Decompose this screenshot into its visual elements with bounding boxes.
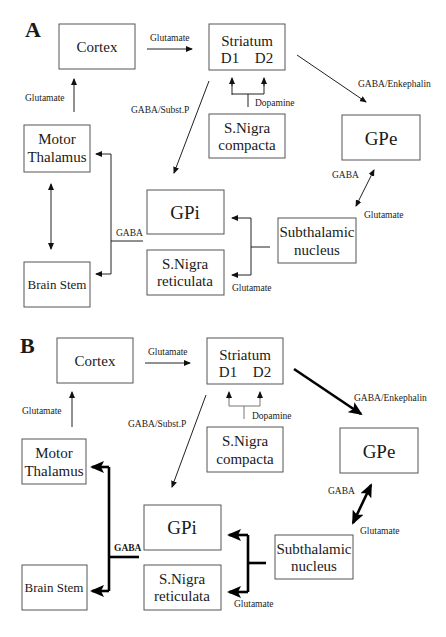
- node-label: S.Nigra: [159, 571, 206, 587]
- edge-label: GABA: [328, 486, 355, 496]
- panel-label-a: A: [25, 17, 41, 42]
- edge-gpi-output: GABA: [96, 154, 143, 274]
- node-gpi: GPi: [144, 505, 221, 550]
- node-label: Cortex: [75, 353, 116, 369]
- edge-label: GABA/Subst.P: [131, 105, 189, 115]
- edge-label: Glutamate: [360, 526, 400, 536]
- panel-b: B Cortex Striatum D1 D2 S.Nigra compacta…: [20, 333, 427, 610]
- node-label: Brain Stem: [25, 580, 84, 595]
- node-subthalamic-nucleus: Subthalamic nucleus: [275, 535, 353, 579]
- edge-label: GABA: [116, 228, 143, 238]
- basal-ganglia-diagram: A Cortex Striatum D1 D2 S.Nigra compacta…: [0, 0, 446, 637]
- node-striatum: Striatum D1 D2: [207, 338, 283, 384]
- node-cortex: Cortex: [57, 338, 133, 383]
- node-label: Thalamus: [27, 149, 86, 165]
- node-label: Thalamus: [24, 463, 83, 479]
- node-gpe: GPe: [340, 428, 418, 473]
- node-motor-thalamus: Motor Thalamus: [22, 439, 86, 484]
- edge-label: Dopamine: [252, 411, 292, 421]
- node-label: S.Nigra: [222, 433, 269, 449]
- edge-label: GABA/Enkephalin: [354, 393, 427, 403]
- node-label: Motor: [38, 131, 76, 147]
- edge-label: GABA: [114, 543, 142, 553]
- panel-a: A Cortex Striatum D1 D2 S.Nigra compacta…: [24, 17, 431, 307]
- node-label: Subthalamic: [277, 541, 352, 557]
- edge-label: Dopamine: [255, 98, 295, 108]
- edge-label: Glutamate: [232, 283, 272, 293]
- node-subthalamic-nucleus: Subthalamic nucleus: [278, 218, 356, 263]
- edge-label: Glutamate: [25, 93, 65, 103]
- node-label: GPi: [167, 517, 197, 538]
- node-label: compacta: [218, 137, 276, 153]
- node-label: Subthalamic: [280, 224, 355, 240]
- node-snigra-reticulata: S.Nigra reticulata: [144, 565, 221, 610]
- edge-label: GABA: [332, 170, 359, 180]
- striatum-d2-label: D2: [255, 50, 273, 66]
- node-gpe: GPe: [342, 115, 420, 160]
- panel-label-b: B: [20, 333, 35, 358]
- node-cortex: Cortex: [59, 24, 135, 69]
- node-label: Striatum: [221, 33, 273, 49]
- striatum-d1-label: D1: [219, 364, 237, 380]
- node-striatum: Striatum D1 D2: [209, 24, 285, 70]
- edge-label: Glutamate: [364, 210, 404, 220]
- edge-cortex-striatum: Glutamate: [147, 33, 192, 49]
- node-brain-stem: Brain Stem: [24, 262, 90, 307]
- edge-label: Glutamate: [148, 347, 188, 357]
- edge-thalamus-cortex: Glutamate: [22, 392, 72, 427]
- node-label: nucleus: [291, 558, 337, 574]
- edge-dopamine: Dopamine: [229, 392, 292, 421]
- edge-striatum-gpe-strong: GABA/Enkephalin: [294, 369, 427, 414]
- node-label: Striatum: [219, 347, 271, 363]
- edge-label: Glutamate: [234, 599, 274, 609]
- node-label: GPe: [363, 441, 396, 462]
- striatum-d2-label: D2: [253, 364, 271, 380]
- edge-dopamine: Dopamine: [232, 78, 295, 108]
- edge-striatum-gpi: GABA/Subst.P: [128, 395, 206, 487]
- edge-striatum-gpe: GABA/Enkephalin: [297, 55, 431, 102]
- node-label: nucleus: [294, 242, 340, 258]
- node-label: Motor: [35, 445, 73, 461]
- edge-striatum-gpi: GABA/Subst.P: [131, 81, 209, 173]
- node-label: reticulata: [157, 273, 213, 289]
- edge-label: Glutamate: [150, 33, 190, 43]
- edge-gpe-stn: GABA Glutamate: [332, 170, 404, 220]
- node-gpi: GPi: [147, 190, 224, 234]
- edge-stn-output-strong: Glutamate: [229, 535, 274, 609]
- node-label: S.Nigra: [162, 256, 209, 272]
- node-label: Cortex: [77, 39, 118, 55]
- node-label: GPi: [170, 202, 200, 223]
- node-snigra-compacta: S.Nigra compacta: [207, 427, 283, 472]
- node-snigra-compacta: S.Nigra compacta: [209, 114, 285, 158]
- node-label: S.Nigra: [224, 120, 271, 136]
- edge-label: GABA/Subst.P: [128, 419, 186, 429]
- node-motor-thalamus: Motor Thalamus: [24, 125, 90, 172]
- node-label: reticulata: [154, 588, 210, 604]
- edge-stn-output: Glutamate: [232, 218, 272, 293]
- node-snigra-reticulata: S.Nigra reticulata: [147, 250, 224, 295]
- edge-gpi-output-strong: GABA: [92, 467, 142, 591]
- striatum-d1-label: D1: [221, 50, 239, 66]
- node-label: compacta: [216, 451, 274, 467]
- edge-thalamus-cortex: Glutamate: [25, 79, 74, 112]
- edge-cortex-striatum: Glutamate: [145, 347, 190, 363]
- edge-label: GABA/Enkephalin: [358, 79, 431, 89]
- edge-gpe-stn-strong: GABA Glutamate: [328, 485, 400, 536]
- node-brain-stem: Brain Stem: [22, 565, 87, 610]
- node-label: GPe: [365, 128, 398, 149]
- edge-label: Glutamate: [22, 406, 62, 416]
- node-label: Brain Stem: [28, 277, 87, 292]
